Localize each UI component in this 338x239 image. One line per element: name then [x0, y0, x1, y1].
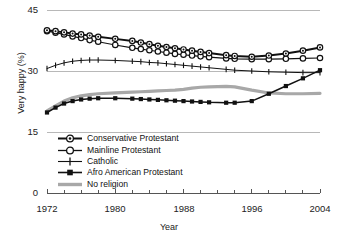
legend-item-no-religion: No religion: [57, 179, 183, 190]
y-tick-0: 0: [10, 188, 38, 198]
y-axis-title: Very happy (%): [16, 28, 26, 138]
legend-item-conservative-protestant: Conservative Protestant: [57, 133, 183, 144]
chart-container: 45 30 15 0 Very happy (%) 1972 1980 1988…: [0, 0, 338, 239]
legend-label: No religion: [87, 179, 128, 190]
legend-marker-square-filled-icon: [57, 167, 83, 178]
legend-label: Afro American Protestant: [87, 167, 183, 178]
x-axis-title: Year: [0, 222, 338, 232]
x-tick-2004: 2004: [300, 203, 338, 214]
legend-marker-circle-open-icon: [57, 145, 83, 156]
legend-marker-plus-icon: [57, 156, 83, 167]
legend-item-afro-american-protestant: Afro American Protestant: [57, 167, 183, 178]
y-tick-45: 45: [10, 5, 38, 15]
legend-marker-circle-dot-icon: [57, 133, 83, 144]
chart-legend: Conservative Protestant Mainline Protest…: [57, 133, 183, 190]
legend-label: Catholic: [87, 156, 118, 167]
legend-label: Mainline Protestant: [87, 145, 161, 156]
legend-label: Conservative Protestant: [87, 133, 179, 144]
legend-marker-thick-gray-line-icon: [57, 179, 83, 190]
x-tick-1980: 1980: [95, 203, 135, 214]
x-tick-1996: 1996: [232, 203, 272, 214]
x-tick-1972: 1972: [27, 203, 67, 214]
legend-item-mainline-protestant: Mainline Protestant: [57, 144, 183, 155]
legend-item-catholic: Catholic: [57, 156, 183, 167]
x-tick-1988: 1988: [164, 203, 204, 214]
